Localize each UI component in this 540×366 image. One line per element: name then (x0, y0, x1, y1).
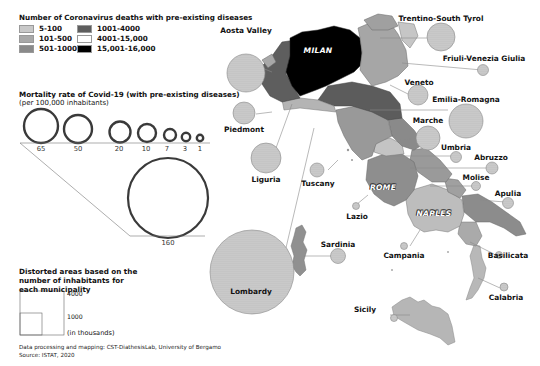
label-umbria: Umbria (441, 143, 471, 152)
mortality-legend-title: Mortality rate of Covid-19 (with pre-exi… (19, 90, 239, 99)
label-aosta-valley: Aosta Valley (220, 26, 272, 35)
swatch-1001-4000 (77, 25, 92, 33)
swatch-4001-15000 (77, 35, 92, 43)
ring-label-50: 50 (74, 145, 83, 153)
legend-class-4001-15000: 4001-15,000 (77, 34, 148, 43)
legend-class-101-500: 101-500 (19, 34, 72, 43)
label-emilia-romagna: Emilia-Romagna (432, 95, 499, 104)
source-text: Source: ISTAT, 2020 (19, 352, 75, 358)
ring-label-20: 20 (115, 145, 124, 153)
credit-text: Data processing and mapping: CST-Diathes… (19, 344, 221, 350)
label-sardinia: Sardinia (321, 240, 356, 249)
label-campania: Campania (383, 251, 424, 260)
city-label-milan: MILAN (304, 46, 333, 55)
ring-label-3: 3 (183, 145, 187, 153)
swatch-5-100 (19, 25, 34, 33)
swatch-15001-16000 (77, 45, 92, 53)
ring-label-7: 7 (165, 145, 169, 153)
label-sicily: Sicily (354, 305, 376, 314)
label-calabria: Calabria (489, 293, 523, 302)
label-tuscany: Tuscany (301, 179, 334, 188)
label-apulia: Apulia (495, 189, 521, 198)
ring-label-65: 65 (37, 145, 46, 153)
deaths-legend-title: Number of Coronavirus deaths with pre-ex… (19, 13, 252, 22)
legend-class-15001-16000: 15,001-16,000 (77, 44, 155, 53)
label-veneto: Veneto (404, 78, 433, 87)
legend-class-501-1000: 501-1000 (19, 44, 77, 53)
calabria-shape (466, 245, 486, 300)
city-label-naples: NAPLES (416, 209, 451, 218)
ring-label-1: 1 (198, 145, 202, 153)
label-liguria: Liguria (252, 175, 281, 184)
ring-label-160: 160 (162, 239, 175, 247)
legend-class-1001-4000: 1001-4000 (77, 24, 140, 33)
sicily-shape (392, 297, 455, 345)
city-label-rome: ROME (370, 183, 396, 192)
area-legend-unit: (in thousands) (67, 329, 115, 337)
label-trentino-south-tyrol: Trentino-South Tyrol (399, 14, 484, 23)
mortality-ring-legend (24, 109, 208, 238)
label-abruzzo: Abruzzo (474, 153, 508, 162)
swatch-101-500 (19, 35, 34, 43)
label-basilicata: Basilicata (488, 251, 529, 260)
label-lombardy: Lombardy (230, 287, 272, 296)
label-friuli-venezia-giulia: Friuli-Venezia Giulia (443, 54, 526, 63)
swatch-501-1000 (19, 45, 34, 53)
area-legend-4000: 4000 (67, 290, 83, 297)
label-lazio: Lazio (346, 212, 368, 221)
label-piedmont: Piedmont (224, 125, 264, 134)
label-marche: Marche (413, 116, 444, 125)
legend-class-5-100: 5-100 (19, 24, 62, 33)
label-molise: Molise (463, 173, 490, 182)
area-legend-1000: 1000 (67, 313, 83, 320)
ring-label-10: 10 (142, 145, 151, 153)
mortality-legend-subtitle: (per 100,000 inhabitants) (19, 99, 109, 107)
basilicata-shape (458, 222, 482, 246)
